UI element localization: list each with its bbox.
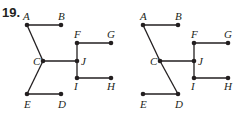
edge-c-d [160,61,178,94]
graph-diagram: ABCDEFGHIJ ABCDEFGHIJ [0,0,234,114]
vertex-label-b: B [58,10,65,22]
vertex-f [192,41,197,46]
vertex-b [176,23,181,28]
vertex-label-a: A [139,10,147,22]
vertex-j [75,59,80,64]
vertex-label-i: I [73,80,79,92]
vertex-label-j: J [198,55,204,67]
vertex-label-f: F [73,28,81,40]
vertex-label-f: F [190,28,198,40]
vertex-c [158,59,163,64]
vertex-e [141,92,146,97]
vertex-label-i: I [190,80,196,92]
vertex-j [192,59,197,64]
vertex-a [25,23,30,28]
graph-left: ABCDEFGHIJ [22,10,116,110]
vertex-label-c: C [33,55,41,67]
graph-right: ABCDEFGHIJ [139,10,233,110]
vertex-a [141,23,146,28]
vertex-g [109,41,114,46]
vertex-label-a: A [22,10,30,22]
vertex-e [25,92,30,97]
vertex-g [226,41,231,46]
vertex-f [75,41,80,46]
vertex-label-g: G [224,28,232,40]
vertex-label-g: G [107,28,115,40]
vertex-label-d: D [174,98,183,110]
vertex-label-b: B [175,10,182,22]
vertex-label-h: H [223,80,233,92]
vertex-label-h: H [106,80,116,92]
vertex-label-e: E [23,98,31,110]
vertex-d [176,92,181,97]
vertex-c [41,59,46,64]
vertex-label-d: D [57,98,66,110]
vertex-label-e: E [139,98,147,110]
vertex-label-c: C [150,55,158,67]
vertex-b [59,23,64,28]
vertex-label-j: J [81,55,87,67]
vertex-d [59,92,64,97]
